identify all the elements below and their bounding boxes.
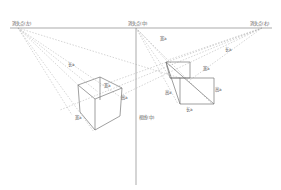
right-box-label-1: 宽a: [160, 35, 167, 42]
right-box-label-3: 宽a: [203, 65, 210, 72]
vanishing-point-right-label: 消失点(右): [250, 20, 270, 27]
right-box-label-5: 长a: [186, 106, 193, 113]
right-box-label-2: 长a: [225, 46, 232, 53]
left-vp-construction-lines: [18, 28, 180, 132]
vanishing-point-left-label: 消失点(左): [12, 20, 32, 27]
left-box-label-3: 高a: [121, 94, 128, 101]
left-box-label-2: 宽a: [104, 82, 111, 89]
right-box-label-6: 高a: [165, 89, 172, 96]
left-box-label-1: 长a: [68, 61, 75, 68]
perspective-diagram: 消失点(左) 消失点(中) 消失点(右) 长a 宽a 高a 宽a: [0, 0, 281, 190]
left-box-label-4: 宽a: [75, 114, 82, 121]
vanishing-point-center-label: 消失点(中): [128, 20, 148, 27]
right-box-label-4: 高a: [215, 86, 222, 93]
left-cuboid: [78, 77, 122, 130]
vertical-axis-label: 视线(中): [139, 114, 155, 121]
